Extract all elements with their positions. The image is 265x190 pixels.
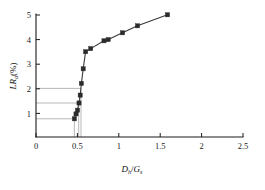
- y-tick-label: 3: [27, 59, 31, 69]
- data-point-marker: [77, 101, 81, 105]
- y-tick-label: 4: [27, 35, 32, 45]
- line-chart-plot: 1 2 3 4 5 0 0.5 1 1.5 2 2.5 Dh/Gs: [0, 0, 265, 190]
- data-point-marker: [81, 67, 85, 71]
- x-tick-label: 2.5: [238, 141, 249, 151]
- data-point-marker: [79, 81, 83, 85]
- y-axis-tick-labels: 1 2 3 4 5: [27, 10, 32, 118]
- data-point-marker: [75, 108, 79, 112]
- data-point-marker: [78, 93, 82, 97]
- x-tick-label: 0: [34, 141, 38, 151]
- data-point-marker: [89, 47, 93, 51]
- chart-figure: 1 2 3 4 5 0 0.5 1 1.5 2 2.5 Dh/Gs: [0, 0, 265, 190]
- y-tick-label: 1: [27, 109, 31, 119]
- data-point-marker: [84, 50, 88, 54]
- series-line-group: [74, 15, 167, 119]
- data-point-marker: [165, 13, 169, 17]
- x-axis-title: Dh/Gs: [120, 164, 143, 175]
- y-axis-title: LRa(%): [8, 62, 19, 90]
- x-tick-label: 0.5: [72, 141, 83, 151]
- x-axis-ticks: [36, 133, 243, 137]
- x-axis-title-group: Dh/Gs: [120, 164, 143, 175]
- x-tick-label: 2: [199, 141, 203, 151]
- x-tick-label: 1: [117, 141, 121, 151]
- x-tick-label: 1.5: [155, 141, 166, 151]
- series-markers-group: [72, 13, 169, 121]
- data-point-marker: [72, 117, 76, 121]
- y-axis-title-unit: (%): [8, 62, 18, 76]
- y-tick-label: 5: [27, 10, 31, 20]
- y-axis-ticks: [36, 15, 40, 113]
- y-axis-title-base: LR: [8, 79, 18, 91]
- data-point-marker: [102, 39, 106, 43]
- x-axis-tick-labels: 0 0.5 1 1.5 2 2.5: [34, 141, 248, 151]
- data-point-marker: [135, 24, 139, 28]
- y-axis-title-group: LRa(%): [8, 62, 19, 90]
- data-point-marker: [106, 38, 110, 42]
- y-tick-label: 2: [27, 84, 31, 94]
- series-polyline: [74, 15, 167, 119]
- x-axis-title-denom-sub: s: [140, 168, 143, 175]
- data-point-marker: [120, 31, 124, 35]
